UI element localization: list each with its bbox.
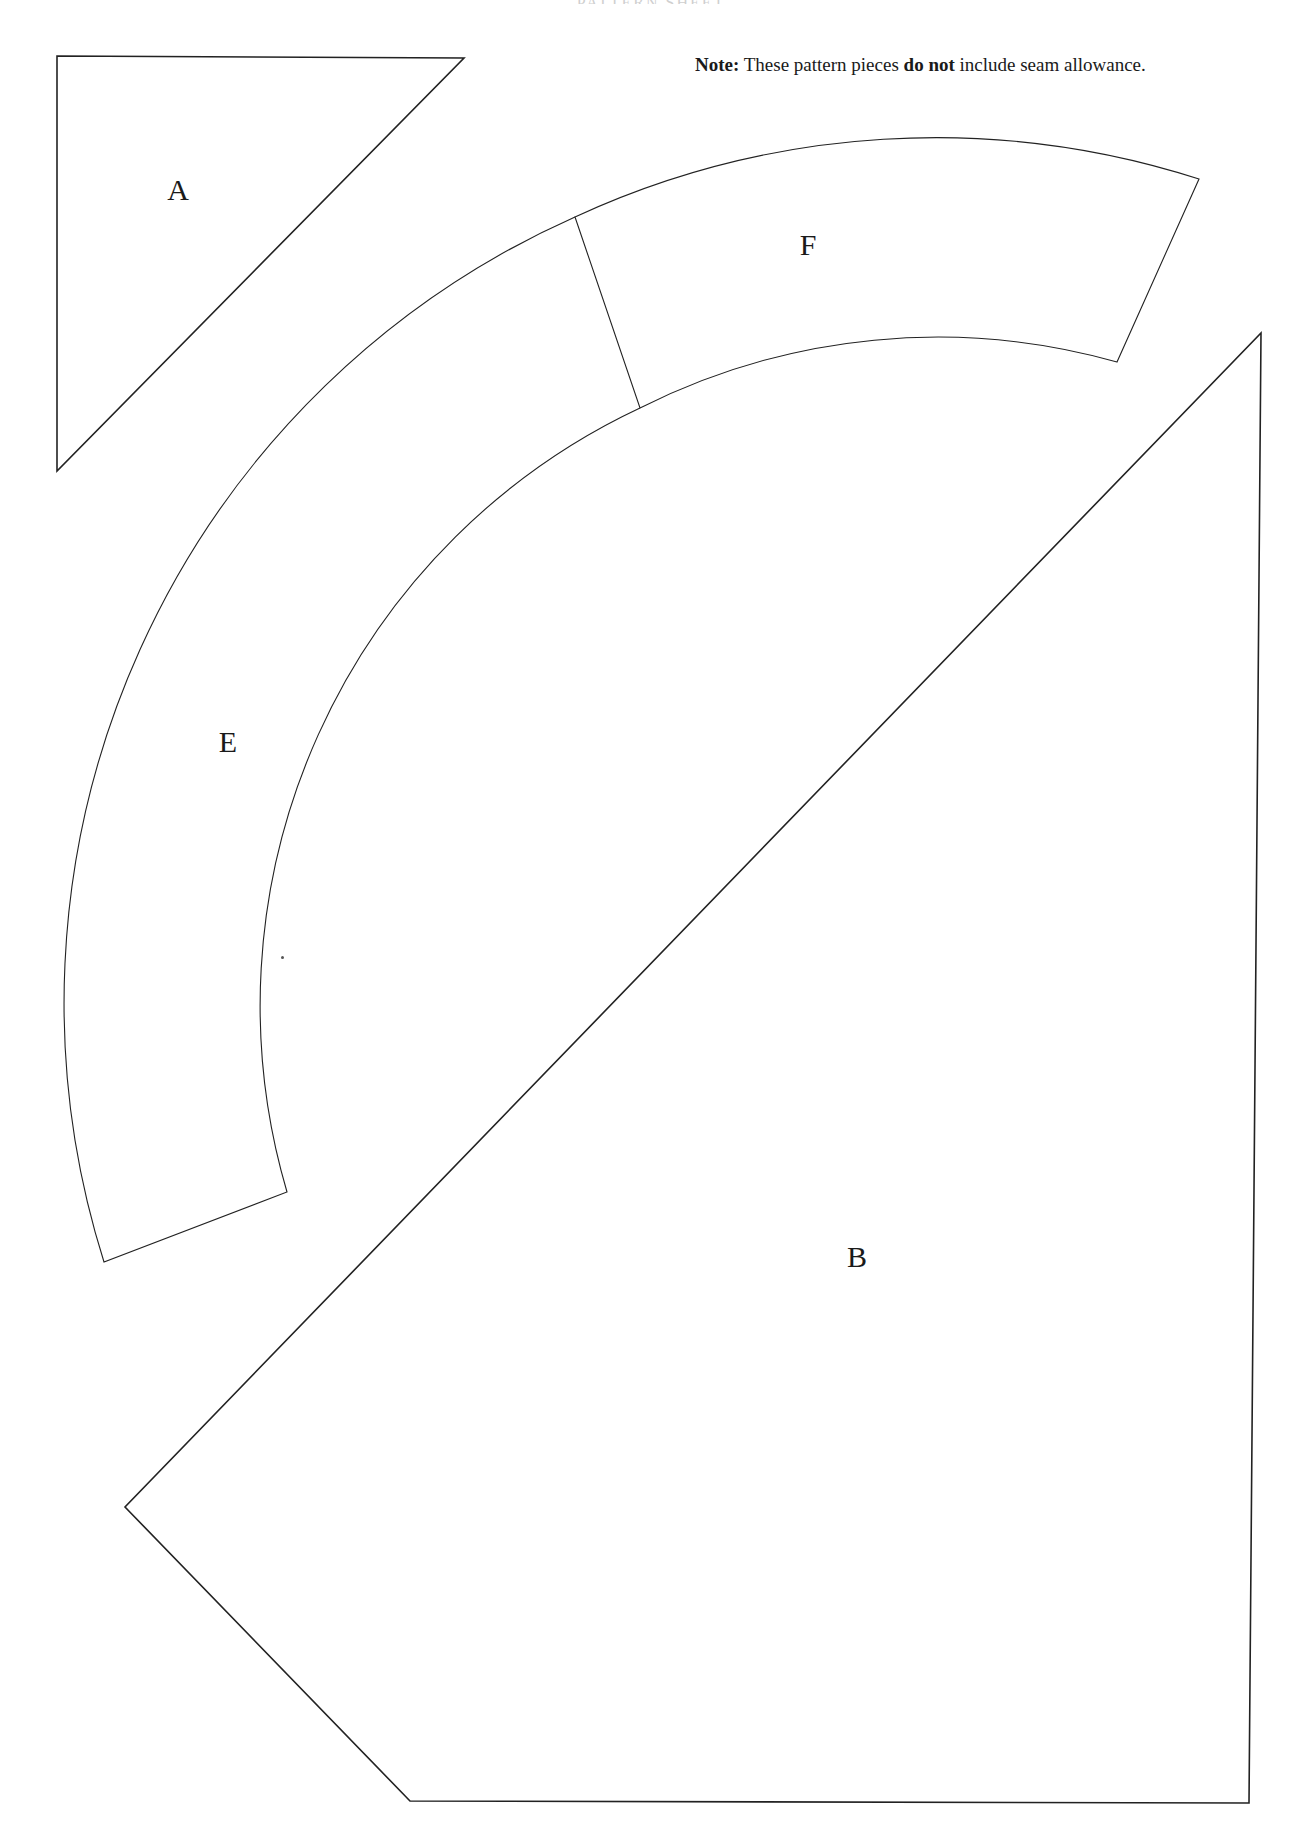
piece-label-f: F [800,230,817,260]
print-speck [281,956,284,959]
pattern-pieces-canvas [0,0,1302,1841]
piece-label-b: B [847,1242,867,1272]
pattern-piece-a [57,56,464,471]
pattern-piece-f [575,138,1199,408]
piece-label-a: A [167,175,189,205]
piece-label-e: E [219,727,237,757]
pattern-piece-b [125,333,1261,1803]
pattern-piece-e [64,217,640,1262]
